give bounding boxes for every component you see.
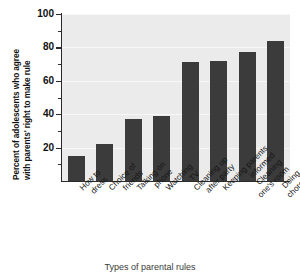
y-tick-major [56,114,62,115]
gridline [62,81,290,82]
y-tick-label-wrap: 100 [0,8,54,20]
y-axis-title: Percent of adolescents who agree with pa… [0,0,34,182]
y-tick-major [56,148,62,149]
bar [68,156,85,181]
gridline [62,114,290,115]
y-tick-label: 100 [4,8,54,19]
y-tick-label: 20 [4,142,54,153]
y-tick-major [56,14,62,15]
bar-chart-figure: Percent of adolescents who agree with pa… [0,0,300,272]
x-axis-title: Types of parental rules [0,262,300,272]
gridline [62,14,290,15]
y-tick-minor [58,164,62,165]
y-tick-label-wrap: 60 [0,75,54,87]
y-tick-label: 60 [4,75,54,86]
y-tick-label-wrap: 20 [0,142,54,154]
y-tick-label: 80 [4,41,54,52]
y-tick-major [56,47,62,48]
y-tick-minor [58,31,62,32]
y-tick-label: 40 [4,108,54,119]
y-tick-major [56,81,62,82]
gridline [62,47,290,48]
y-tick-minor [58,98,62,99]
x-axis-tick-labels: How todressChoice offriendsTalking onpho… [0,182,300,254]
y-tick-label-wrap: 80 [0,41,54,53]
y-tick-minor [58,64,62,65]
y-tick-label-wrap: 40 [0,108,54,120]
y-tick-minor [58,131,62,132]
